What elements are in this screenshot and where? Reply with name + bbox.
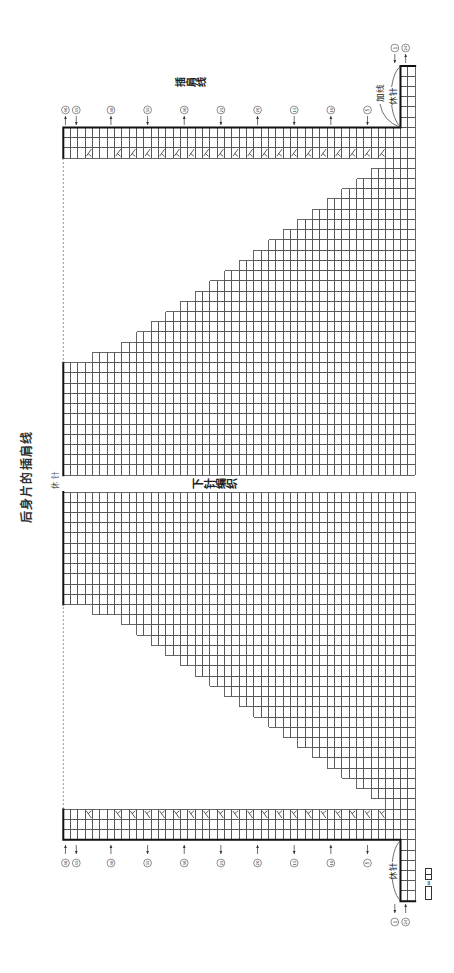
row-label-45-top: 45 <box>72 106 80 125</box>
arrowhead-icon <box>219 122 222 125</box>
arrowhead-icon <box>293 122 296 125</box>
row-label-15-bottom: 15 <box>290 845 298 867</box>
row-number: 45 <box>74 107 79 112</box>
decrease-mark-icon <box>336 149 341 156</box>
row-label-15-top: 15 <box>290 106 298 125</box>
arrowhead-icon <box>75 122 78 125</box>
row-label-25-bottom: 25 <box>217 845 225 867</box>
decrease-mark-icon <box>292 811 297 818</box>
legend-blank-square-icon <box>425 886 432 900</box>
row-label-46-top: 46 <box>62 106 70 125</box>
decrease-mark-icon <box>86 811 91 818</box>
row-label-1-bottom: 1 <box>391 904 399 926</box>
decrease-mark-icon <box>365 811 370 818</box>
row-number: 35 <box>145 860 150 865</box>
stockinette-label: 下针编织 <box>192 479 238 490</box>
decrease-mark-icon <box>160 149 165 156</box>
row-label-46-bottom: 46 <box>62 845 70 867</box>
row-label-40-bottom: 40 <box>107 845 115 867</box>
decrease-mark-icon <box>262 149 267 156</box>
decrease-mark-icon <box>262 811 267 818</box>
row-number: 30 <box>182 107 187 112</box>
join-yarn-label: 加线 <box>375 84 386 102</box>
arrowhead-icon <box>393 910 396 913</box>
row-label-10-top: 10 <box>327 106 335 125</box>
row-number: 20 <box>255 107 260 112</box>
row-number: 1 <box>393 46 398 49</box>
row-number: 10 <box>329 107 334 112</box>
row-number: 46 <box>63 107 68 112</box>
row-number: 25 <box>219 107 224 112</box>
arrowhead-icon <box>64 845 67 848</box>
row-number: 1 <box>393 920 398 923</box>
decrease-mark-icon <box>321 149 326 156</box>
decrease-mark-icon <box>306 811 311 818</box>
arrowhead-icon <box>146 851 149 854</box>
row-number: 25 <box>219 860 224 865</box>
decrease-mark-icon <box>321 811 326 818</box>
decrease-mark-icon <box>189 149 194 156</box>
decrease-mark-icon <box>277 149 282 156</box>
decrease-mark-icon <box>233 149 238 156</box>
row-label-20-bottom: 20 <box>254 845 262 867</box>
row-number: 15 <box>292 860 297 865</box>
arrowhead-icon <box>256 116 259 119</box>
decrease-mark-icon <box>189 811 194 818</box>
join-yarn-leader <box>380 104 401 128</box>
row-number: 24 <box>403 919 408 924</box>
arrowhead-icon <box>183 845 186 848</box>
arrowhead-icon <box>110 116 113 119</box>
decrease-mark-icon <box>233 811 238 818</box>
row-label-24-top: 24 <box>402 44 410 63</box>
decrease-mark-icon <box>380 811 385 818</box>
row-label-20-top: 20 <box>254 106 262 125</box>
row-label-5-bottom: 5 <box>364 845 372 867</box>
row-number: 40 <box>109 860 114 865</box>
row-label-10-bottom: 10 <box>327 845 335 867</box>
row-number: 35 <box>145 107 150 112</box>
decrease-mark-icon <box>160 811 165 818</box>
decrease-mark-icon <box>218 811 223 818</box>
row-label-35-top: 35 <box>144 106 152 125</box>
row-number: 15 <box>292 107 297 112</box>
hold-stitches-label-neck: 休针 <box>52 469 60 489</box>
legend-knit-stitch-icon <box>425 868 432 880</box>
decrease-mark-icon <box>145 811 150 818</box>
row-number: 5 <box>365 861 370 864</box>
decrease-mark-icon <box>204 811 209 818</box>
row-number: 40 <box>109 107 114 112</box>
decrease-mark-icon <box>116 811 121 818</box>
arrowhead-icon <box>64 116 67 119</box>
decrease-mark-icon <box>248 811 253 818</box>
chart-outline-thick <box>63 66 415 901</box>
decrease-mark-icon <box>350 149 355 156</box>
arrowhead-icon <box>219 851 222 854</box>
row-label-5-top: 5 <box>364 106 372 125</box>
arrowhead-icon <box>293 851 296 854</box>
decrease-mark-icon <box>248 149 253 156</box>
arrowhead-icon <box>146 122 149 125</box>
row-label-25-top: 25 <box>217 106 225 125</box>
decrease-mark-icon <box>130 149 135 156</box>
row-label-30-top: 30 <box>180 106 188 125</box>
decrease-mark-icon <box>174 149 179 156</box>
hold-stitches-label-bottom: 休针 <box>388 862 399 880</box>
decrease-mark-icon <box>380 149 385 156</box>
row-label-30-bottom: 30 <box>180 845 188 867</box>
row-label-24-bottom: 24 <box>402 904 410 926</box>
arrowhead-icon <box>404 904 407 907</box>
row-number: 46 <box>63 860 68 865</box>
row-number: 20 <box>255 860 260 865</box>
decrease-mark-icon <box>365 149 370 156</box>
arrowhead-icon <box>75 851 78 854</box>
row-label-35-bottom: 35 <box>144 845 152 867</box>
decrease-mark-icon <box>306 149 311 156</box>
decrease-mark-icon <box>292 149 297 156</box>
row-number: 10 <box>329 860 334 865</box>
arrowhead-icon <box>366 851 369 854</box>
chart-outline <box>63 66 415 901</box>
arrowhead-icon <box>183 116 186 119</box>
chart-title: 后身片的插肩线 <box>21 431 33 523</box>
decrease-mark-icon <box>145 149 150 156</box>
decrease-mark-icon <box>218 149 223 156</box>
